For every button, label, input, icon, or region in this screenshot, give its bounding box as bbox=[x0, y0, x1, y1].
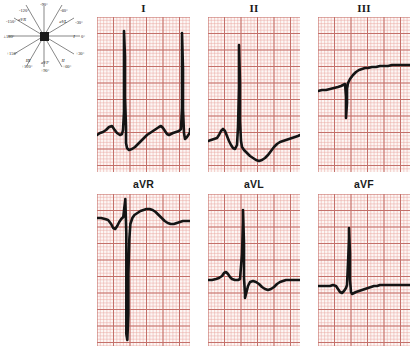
hexaxial-lead-label-I: I bbox=[72, 34, 75, 39]
lead-title-I: I bbox=[97, 2, 190, 14]
ecg-strip-lead-aVL bbox=[208, 194, 300, 346]
ecg-strip-lead-aVF bbox=[318, 194, 410, 346]
lead-title-III: III bbox=[318, 2, 410, 14]
ecg-strip-lead-III bbox=[318, 17, 410, 172]
ecg-strip-lead-I bbox=[97, 17, 190, 172]
ecg-strip-lead-II bbox=[208, 17, 300, 172]
ecg-grid-and-trace bbox=[318, 194, 410, 346]
deg-label: +90° bbox=[41, 68, 50, 72]
deg-label: ±180° bbox=[4, 34, 15, 39]
lead-title-aVL: aVL bbox=[208, 178, 300, 190]
ecg-grid-and-trace bbox=[208, 17, 300, 172]
lead-title-aVR: aVR bbox=[97, 178, 190, 190]
deg-label: -150° bbox=[6, 19, 16, 24]
ecg-grid-and-trace bbox=[208, 194, 300, 346]
lead-title-II: II bbox=[208, 2, 300, 14]
hexaxial-lead-label-aVF: aVF bbox=[41, 60, 49, 65]
ecg-grid-and-trace bbox=[97, 194, 190, 346]
ecg-grid-and-trace bbox=[318, 17, 410, 172]
hexaxial-lead-label-aVL: aVL bbox=[59, 19, 67, 24]
deg-label: +60° bbox=[63, 64, 72, 69]
ecg-grid-and-trace bbox=[97, 17, 190, 172]
hexaxial-center-hub bbox=[40, 32, 49, 41]
lead-title-aVF: aVF bbox=[318, 178, 410, 190]
deg-label: +30° bbox=[76, 51, 85, 56]
deg-label: 0° bbox=[81, 34, 85, 39]
ecg-strip-lead-aVR bbox=[97, 194, 190, 346]
deg-label: -120° bbox=[19, 8, 29, 13]
deg-label: -30° bbox=[75, 20, 83, 25]
deg-label: -90° bbox=[40, 2, 48, 7]
hexaxial-lead-label-II: II bbox=[60, 58, 65, 63]
deg-label: +120° bbox=[22, 64, 33, 69]
hexaxial-lead-label-III: III bbox=[25, 58, 31, 63]
hexaxial-reference-diagram: -90° -120° -60° -150° -30° ±180° 0° +150… bbox=[0, 0, 92, 72]
hexaxial-svg: -90° -120° -60° -150° -30° ±180° 0° +150… bbox=[0, 0, 92, 72]
deg-label: -60° bbox=[60, 8, 68, 13]
hexaxial-lead-label-aVR: aVR bbox=[18, 17, 26, 22]
deg-label: +150° bbox=[7, 51, 18, 56]
